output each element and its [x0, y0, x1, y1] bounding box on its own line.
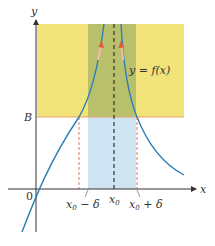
left-delta-leader	[85, 190, 88, 197]
x-axis-label: x	[200, 183, 207, 196]
curve-label: y = f(x)	[128, 64, 170, 77]
origin-label: 0	[26, 190, 33, 203]
right-delta-leader	[137, 190, 140, 197]
x0-plus-delta-label: x0 + δ	[129, 198, 163, 212]
y-axis-label: y	[30, 5, 38, 18]
infinite-limit-diagram: y x 0 B y = f(x) x0 x0 − δ x0 + δ	[0, 0, 215, 246]
delta-band-lower	[88, 117, 136, 189]
x0-label: x0	[109, 193, 120, 207]
level-b-label: B	[23, 111, 32, 124]
x0-minus-delta-label: x0 − δ	[66, 198, 100, 212]
